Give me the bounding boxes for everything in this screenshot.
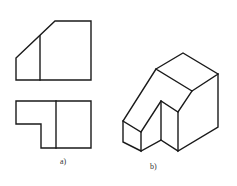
iso-top-face (156, 53, 218, 91)
subfigure-label-a: a) (60, 157, 66, 166)
iso-left-block (123, 121, 141, 151)
front-view-outline (16, 21, 91, 80)
diagram-canvas (0, 0, 237, 186)
front-view (16, 21, 91, 80)
isometric-view (123, 53, 218, 151)
top-view (16, 101, 91, 148)
subfigure-label-b: b) (150, 162, 157, 171)
iso-slope-face (123, 69, 192, 132)
iso-notch-left (141, 101, 161, 151)
top-view-outline (16, 101, 91, 148)
iso-notch-bottom (161, 140, 178, 151)
